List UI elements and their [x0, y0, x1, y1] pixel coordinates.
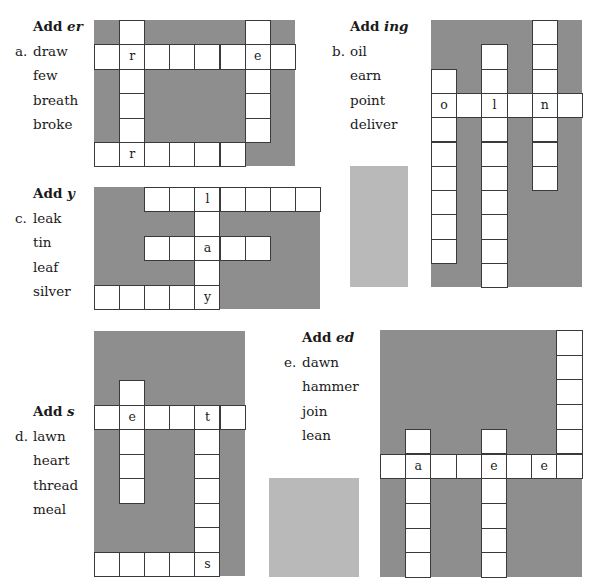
- crossword-cell[interactable]: [94, 552, 120, 578]
- crossword-cell-filled[interactable]: y: [194, 285, 220, 310]
- crossword-cell[interactable]: [245, 69, 271, 94]
- crossword-cell[interactable]: [532, 166, 558, 191]
- crossword-cell[interactable]: [481, 503, 507, 529]
- crossword-cell[interactable]: [431, 69, 457, 94]
- crossword-cell[interactable]: [481, 239, 507, 264]
- crossword-cell[interactable]: [169, 44, 195, 69]
- crossword-cell[interactable]: [481, 44, 507, 69]
- crossword-cell[interactable]: [431, 142, 457, 167]
- crossword-cell[interactable]: [295, 187, 321, 212]
- crossword-cell[interactable]: [481, 429, 507, 455]
- crossword-cell[interactable]: [557, 93, 583, 118]
- crossword-cell[interactable]: [556, 330, 582, 356]
- crossword-cell[interactable]: [556, 429, 582, 455]
- crossword-cell[interactable]: [245, 93, 271, 118]
- crossword-cell[interactable]: [431, 166, 457, 191]
- crossword-cell[interactable]: [481, 528, 507, 554]
- crossword-cell[interactable]: [144, 44, 170, 69]
- crossword-cell-filled[interactable]: r: [119, 44, 145, 69]
- crossword-cell[interactable]: [94, 44, 120, 69]
- crossword-cell[interactable]: [481, 117, 507, 142]
- crossword-cell[interactable]: [119, 285, 145, 310]
- crossword-cell[interactable]: [119, 454, 145, 480]
- crossword-cell[interactable]: [481, 552, 507, 578]
- crossword-cell[interactable]: [270, 187, 296, 212]
- crossword-cell[interactable]: [119, 380, 145, 406]
- crossword-cell[interactable]: [245, 20, 271, 45]
- crossword-cell[interactable]: [431, 190, 457, 215]
- crossword-cell[interactable]: [405, 552, 431, 578]
- crossword-cell[interactable]: [169, 405, 195, 431]
- crossword-cell[interactable]: [220, 236, 246, 261]
- crossword-cell[interactable]: [556, 355, 582, 381]
- crossword-cell[interactable]: [405, 503, 431, 529]
- crossword-cell[interactable]: [481, 214, 507, 239]
- crossword-cell[interactable]: [119, 20, 145, 45]
- crossword-cell[interactable]: [119, 478, 145, 504]
- crossword-cell[interactable]: [119, 118, 145, 143]
- crossword-cell[interactable]: [169, 187, 195, 212]
- crossword-cell[interactable]: [532, 117, 558, 142]
- crossword-cell[interactable]: [431, 239, 457, 264]
- crossword-cell[interactable]: [507, 93, 533, 118]
- crossword-cell[interactable]: [119, 552, 145, 578]
- crossword-cell[interactable]: [532, 69, 558, 94]
- crossword-cell-filled[interactable]: n: [532, 93, 558, 118]
- crossword-cell[interactable]: [94, 405, 120, 431]
- crossword-cell[interactable]: [119, 429, 145, 455]
- crossword-cell-filled[interactable]: e: [481, 454, 507, 480]
- crossword-cell[interactable]: [144, 285, 170, 310]
- crossword-cell[interactable]: [405, 478, 431, 504]
- crossword-cell-filled[interactable]: e: [531, 454, 557, 480]
- crossword-cell[interactable]: [431, 214, 457, 239]
- crossword-cell[interactable]: [532, 142, 558, 167]
- crossword-cell[interactable]: [144, 142, 170, 167]
- crossword-cell[interactable]: [456, 454, 482, 480]
- crossword-cell[interactable]: [169, 285, 195, 310]
- crossword-cell[interactable]: [220, 142, 246, 167]
- crossword-cell[interactable]: [119, 93, 145, 118]
- crossword-cell[interactable]: [405, 528, 431, 554]
- crossword-cell[interactable]: [556, 379, 582, 405]
- crossword-cell-filled[interactable]: e: [245, 44, 271, 69]
- crossword-cell[interactable]: [245, 118, 271, 143]
- crossword-cell[interactable]: [194, 527, 220, 553]
- crossword-cell[interactable]: [532, 20, 558, 45]
- crossword-cell[interactable]: [245, 236, 271, 261]
- crossword-cell[interactable]: [144, 405, 170, 431]
- crossword-cell[interactable]: [194, 429, 220, 455]
- crossword-cell[interactable]: [144, 236, 170, 261]
- crossword-cell[interactable]: [431, 117, 457, 142]
- crossword-cell[interactable]: [194, 211, 220, 236]
- crossword-cell-filled[interactable]: r: [119, 142, 145, 167]
- crossword-cell[interactable]: [430, 454, 456, 480]
- crossword-cell[interactable]: [456, 93, 482, 118]
- crossword-cell[interactable]: [144, 552, 170, 578]
- crossword-cell[interactable]: [481, 478, 507, 504]
- crossword-cell[interactable]: [532, 44, 558, 69]
- crossword-cell[interactable]: [481, 69, 507, 94]
- crossword-cell[interactable]: [405, 429, 431, 455]
- crossword-cell-filled[interactable]: e: [119, 405, 145, 431]
- crossword-cell[interactable]: [506, 454, 532, 480]
- crossword-cell[interactable]: [220, 405, 246, 431]
- crossword-cell[interactable]: [220, 187, 246, 212]
- crossword-cell[interactable]: [556, 454, 582, 480]
- crossword-cell[interactable]: [220, 44, 246, 69]
- crossword-cell-filled[interactable]: l: [481, 93, 507, 118]
- crossword-cell-filled[interactable]: a: [405, 454, 431, 480]
- crossword-cell[interactable]: [194, 478, 220, 504]
- crossword-cell-filled[interactable]: l: [194, 187, 220, 212]
- crossword-cell[interactable]: [481, 142, 507, 167]
- crossword-cell[interactable]: [481, 166, 507, 191]
- crossword-cell[interactable]: [94, 142, 120, 167]
- crossword-cell[interactable]: [194, 454, 220, 480]
- crossword-cell[interactable]: [194, 44, 220, 69]
- crossword-cell[interactable]: [245, 187, 271, 212]
- crossword-cell-filled[interactable]: t: [194, 405, 220, 431]
- crossword-cell-filled[interactable]: a: [194, 236, 220, 261]
- crossword-cell[interactable]: [194, 142, 220, 167]
- crossword-cell[interactable]: [481, 190, 507, 215]
- crossword-cell[interactable]: [194, 260, 220, 285]
- crossword-cell[interactable]: [556, 404, 582, 430]
